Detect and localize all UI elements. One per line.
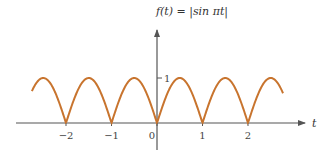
- x-tick-label: 1: [199, 130, 205, 141]
- y-tick-label: 1: [164, 73, 170, 84]
- x-tick-label: 0: [149, 130, 155, 141]
- x-tick-label: 2: [245, 130, 251, 141]
- x-tick-label: −1: [104, 130, 119, 141]
- x-tick-label: −2: [59, 130, 74, 141]
- chart: −2−10121 f(t) = |sin πt| t: [0, 0, 335, 159]
- x-axis-label: t: [312, 117, 317, 130]
- chart-title: f(t) = |sin πt|: [155, 5, 228, 19]
